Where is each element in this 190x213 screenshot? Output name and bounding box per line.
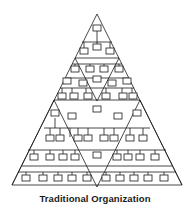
org-box bbox=[30, 154, 38, 160]
org-box bbox=[129, 93, 137, 99]
org-box bbox=[160, 175, 168, 181]
org-box bbox=[100, 135, 108, 141]
org-box bbox=[102, 175, 110, 181]
org-box bbox=[39, 175, 47, 181]
org-box bbox=[106, 48, 114, 54]
org-box bbox=[56, 135, 64, 141]
org-box bbox=[93, 106, 101, 112]
org-box bbox=[124, 154, 132, 160]
org-box bbox=[114, 113, 122, 119]
org-box bbox=[80, 48, 88, 54]
org-box bbox=[46, 135, 54, 141]
org-box bbox=[130, 175, 138, 181]
org-box bbox=[74, 135, 82, 141]
org-box bbox=[70, 93, 78, 99]
org-box bbox=[93, 152, 101, 158]
org-box bbox=[115, 66, 123, 72]
org-box bbox=[93, 76, 101, 82]
org-box bbox=[110, 135, 118, 141]
org-box bbox=[123, 78, 131, 84]
org-box bbox=[93, 25, 101, 31]
org-box bbox=[71, 66, 79, 72]
org-box bbox=[102, 93, 110, 99]
traditional-organization-pyramid bbox=[0, 0, 190, 190]
org-box bbox=[133, 110, 141, 116]
org-box bbox=[113, 154, 121, 160]
org-box bbox=[83, 175, 91, 181]
org-box bbox=[54, 175, 62, 181]
org-box bbox=[116, 175, 124, 181]
inverted-triangle-mid bbox=[54, 100, 140, 187]
diagram-caption: Traditional Organization bbox=[0, 193, 190, 204]
org-box bbox=[68, 113, 76, 119]
org-box bbox=[119, 93, 127, 99]
org-box bbox=[93, 44, 101, 50]
org-box bbox=[139, 135, 147, 141]
org-box bbox=[59, 154, 67, 160]
org-box bbox=[63, 78, 71, 84]
org-box bbox=[86, 66, 94, 72]
org-box bbox=[22, 175, 30, 181]
org-box bbox=[84, 135, 92, 141]
org-box bbox=[126, 135, 134, 141]
org-box bbox=[71, 154, 79, 160]
org-box bbox=[136, 154, 144, 160]
org-box bbox=[144, 175, 152, 181]
org-box bbox=[108, 80, 116, 86]
org-box bbox=[79, 80, 87, 86]
org-box bbox=[51, 110, 59, 116]
org-box bbox=[46, 154, 54, 160]
org-box bbox=[58, 93, 66, 99]
org-box bbox=[151, 154, 159, 160]
org-box bbox=[84, 93, 92, 99]
org-box bbox=[68, 175, 76, 181]
org-box bbox=[100, 66, 108, 72]
